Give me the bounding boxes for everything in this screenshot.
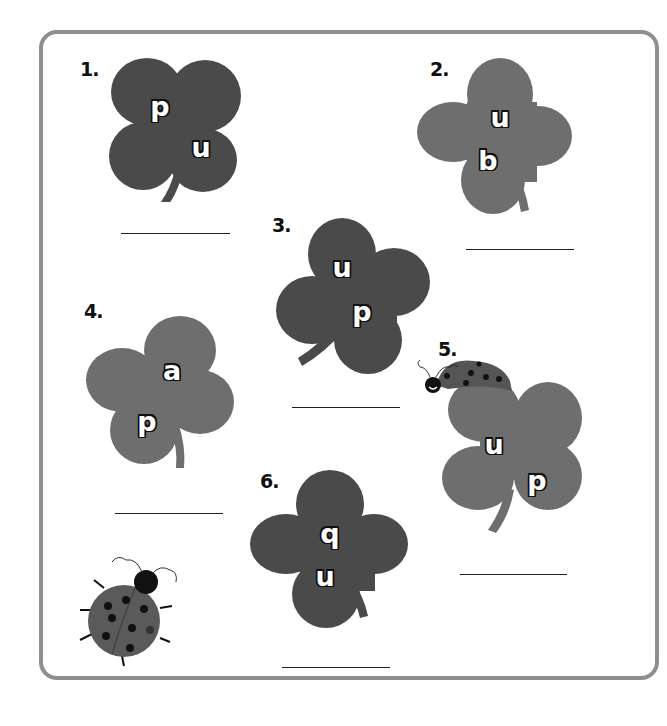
ladybug-icon <box>414 355 524 410</box>
clover-letter: u <box>484 431 503 458</box>
clover-letter: u <box>191 134 210 161</box>
clover-letter: p <box>137 408 156 435</box>
answer-line[interactable] <box>282 667 390 668</box>
item-number: 1. <box>80 58 98 80</box>
answer-line[interactable] <box>121 233 230 234</box>
clover-letter: b <box>478 147 497 174</box>
clover-icon <box>272 212 437 377</box>
clover-letter: p <box>352 298 371 325</box>
clover-letter: u <box>332 254 351 281</box>
clover-letter: p <box>150 93 169 120</box>
clover-letter: p <box>527 467 546 494</box>
clover-letter: u <box>490 104 509 131</box>
clover-icon <box>100 52 250 202</box>
clover-letter: a <box>163 357 181 384</box>
answer-line[interactable] <box>466 249 574 250</box>
clover-icon <box>415 52 575 222</box>
answer-line[interactable] <box>115 513 223 514</box>
clover-letter: q <box>320 520 339 547</box>
clover-icon <box>250 466 410 631</box>
answer-line[interactable] <box>460 574 567 575</box>
answer-line[interactable] <box>292 407 400 408</box>
clover-icon <box>82 308 242 473</box>
ladybug-icon <box>78 548 188 668</box>
clover-letter: u <box>315 563 334 590</box>
